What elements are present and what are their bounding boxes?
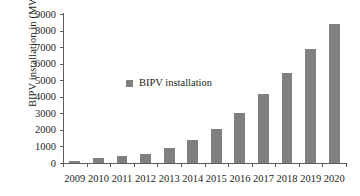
x-tick-mark xyxy=(346,163,347,167)
x-tick-label: 2011 xyxy=(112,172,133,186)
y-tick-mark xyxy=(60,64,63,65)
bar xyxy=(234,113,245,163)
bar xyxy=(187,140,198,163)
x-tick-label: 2017 xyxy=(253,172,274,186)
y-tick-label: 1000 xyxy=(35,139,56,154)
bar xyxy=(211,129,222,163)
x-tick-mark xyxy=(228,163,229,167)
bar xyxy=(164,148,175,163)
x-tick-label: 2020 xyxy=(324,172,345,186)
x-tick-label: 2013 xyxy=(159,172,180,186)
x-tick-mark xyxy=(157,163,158,167)
bar xyxy=(69,161,80,163)
bar xyxy=(329,24,340,163)
y-tick-mark xyxy=(60,97,63,98)
legend-label: BIPV installation xyxy=(139,77,212,89)
bar xyxy=(140,154,151,163)
x-tick-mark xyxy=(87,163,88,167)
x-tick-label: 2016 xyxy=(229,172,250,186)
x-tick-mark xyxy=(205,163,206,167)
y-tick-label: 2000 xyxy=(35,122,56,137)
legend: BIPV installation xyxy=(126,77,212,89)
y-tick-label: 3000 xyxy=(35,106,56,121)
x-tick-label: 2014 xyxy=(182,172,203,186)
x-tick-label: 2012 xyxy=(135,172,156,186)
x-tick-label: 2018 xyxy=(277,172,298,186)
x-axis-labels: 2009201020112012201320142015201620172018… xyxy=(63,172,347,188)
y-tick-mark xyxy=(60,14,63,15)
x-tick-mark xyxy=(181,163,182,167)
x-tick-label: 2010 xyxy=(88,172,109,186)
bar xyxy=(305,49,316,163)
y-tick-label: 8000 xyxy=(35,23,56,38)
y-tick-mark xyxy=(60,47,63,48)
x-tick-label: 2015 xyxy=(206,172,227,186)
x-tick-mark xyxy=(252,163,253,167)
x-tick-mark xyxy=(299,163,300,167)
y-tick-mark xyxy=(60,113,63,114)
y-tick-mark xyxy=(60,130,63,131)
y-tick-label: 7000 xyxy=(35,40,56,55)
bar xyxy=(258,94,269,163)
x-tick-mark xyxy=(63,163,64,167)
y-tick-mark xyxy=(60,146,63,147)
x-tick-label: 2009 xyxy=(64,172,85,186)
y-tick-label: 4000 xyxy=(35,89,56,104)
legend-swatch-icon xyxy=(126,80,133,87)
y-tick-mark xyxy=(60,31,63,32)
bar-chart: BIPV installation in (MW) 01000200030004… xyxy=(0,0,360,196)
y-tick-label: 0 xyxy=(51,156,56,171)
x-tick-mark xyxy=(322,163,323,167)
x-tick-mark xyxy=(134,163,135,167)
y-tick-mark xyxy=(60,80,63,81)
x-tick-mark xyxy=(275,163,276,167)
bar xyxy=(93,158,104,163)
bar xyxy=(117,156,128,163)
bar xyxy=(282,73,293,163)
x-tick-mark xyxy=(110,163,111,167)
x-tick-label: 2019 xyxy=(300,172,321,186)
y-tick-label: 6000 xyxy=(35,56,56,71)
y-tick-label: 9000 xyxy=(35,7,56,22)
y-tick-label: 5000 xyxy=(35,73,56,88)
